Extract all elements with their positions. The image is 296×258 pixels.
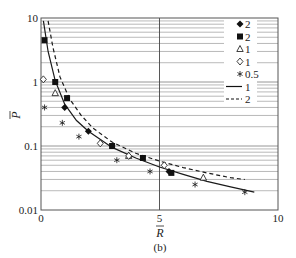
filled-square-marker	[42, 37, 48, 43]
filled-diamond-marker	[61, 104, 68, 111]
fit-curves	[43, 21, 254, 192]
legend-label: 1	[245, 81, 251, 93]
y-axis-label: P	[9, 111, 23, 120]
legend-label: 2	[245, 18, 251, 30]
legend-label: 1	[245, 56, 251, 68]
x-axis-label: R	[155, 226, 164, 240]
legend-label: 2	[245, 31, 251, 43]
x-tick-label: 0	[38, 212, 44, 224]
y-tick-label: 1	[33, 76, 39, 88]
open-triangle-marker	[200, 174, 206, 180]
filled-square-marker	[52, 79, 58, 85]
asterisk-marker	[192, 182, 197, 188]
x-axis-ticks: 0510	[38, 212, 284, 224]
solid-curve	[43, 21, 254, 192]
open-triangle-marker	[52, 90, 58, 96]
asterisk-marker	[76, 134, 81, 140]
y-tick-label: 0.01	[19, 204, 38, 216]
filled-square-marker	[168, 170, 174, 176]
legend-label: 0.5	[245, 68, 259, 80]
x-tick-label: 10	[273, 212, 285, 224]
svg-text:P: P	[9, 111, 23, 120]
filled-square-marker	[109, 143, 115, 149]
chart: 1010.10.01 0510 22110.512 P R (b)	[0, 0, 296, 258]
x-tick-label: 5	[157, 212, 163, 224]
legend-label: 1	[245, 43, 251, 55]
asterisk-marker	[60, 120, 65, 126]
filled-square-marker	[64, 95, 70, 101]
figure-caption: (b)	[154, 241, 167, 254]
svg-text:R: R	[155, 226, 164, 240]
filled-square-marker	[140, 155, 146, 161]
filled-square-marker	[237, 34, 243, 40]
legend-label: 2	[245, 93, 251, 105]
y-tick-label: 10	[27, 12, 39, 24]
y-tick-label: 0.1	[24, 140, 38, 152]
